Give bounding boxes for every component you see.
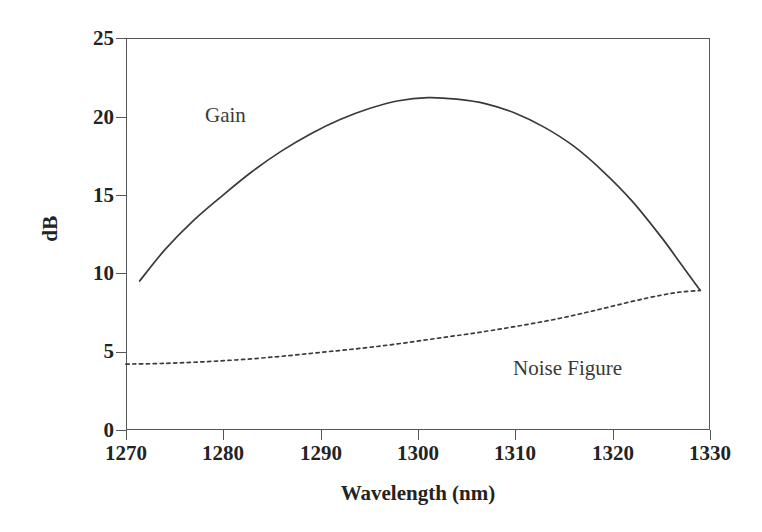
noise-figure-label: Noise Figure [513,356,622,381]
data-curves [0,0,762,532]
chart-figure: 25 20 15 10 5 0 dB 1270 1280 1290 1300 1… [0,0,762,532]
noise-figure-curve [126,290,700,364]
gain-label: Gain [205,103,246,128]
